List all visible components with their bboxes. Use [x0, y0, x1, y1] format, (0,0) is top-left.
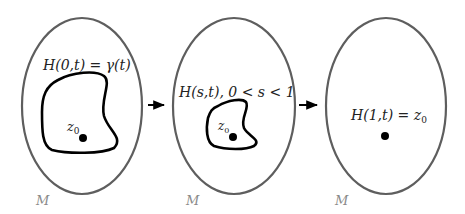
- manifold-label: M: [334, 193, 349, 208]
- point-label: z0: [66, 119, 80, 136]
- manifold-ellipse: [326, 18, 446, 194]
- manifold-ellipse: [173, 18, 295, 194]
- manifold-label: M: [35, 193, 50, 208]
- panel-label: H(s,t), 0 < s < 1: [178, 84, 295, 100]
- panel-intermediate: H(s,t), 0 < s < 1 z0 M: [173, 18, 295, 208]
- loop-curve: [207, 100, 257, 149]
- panel-start: H(0,t) = γ(t) z0 M: [22, 18, 142, 208]
- point-label: z0: [217, 119, 229, 135]
- panel-label: H(1,t) = z0: [350, 107, 427, 125]
- manifold-label: M: [185, 193, 200, 208]
- manifold-ellipse: [22, 18, 142, 194]
- panel-label: H(0,t) = γ(t): [42, 57, 131, 73]
- loop-curve: [42, 73, 117, 153]
- homotopy-diagram: H(0,t) = γ(t) z0 M H(s,t), 0 < s < 1 z0 …: [0, 0, 465, 214]
- base-point: [79, 134, 87, 142]
- panel-end: H(1,t) = z0 M: [326, 18, 446, 208]
- base-point: [381, 132, 389, 140]
- base-point: [229, 133, 237, 141]
